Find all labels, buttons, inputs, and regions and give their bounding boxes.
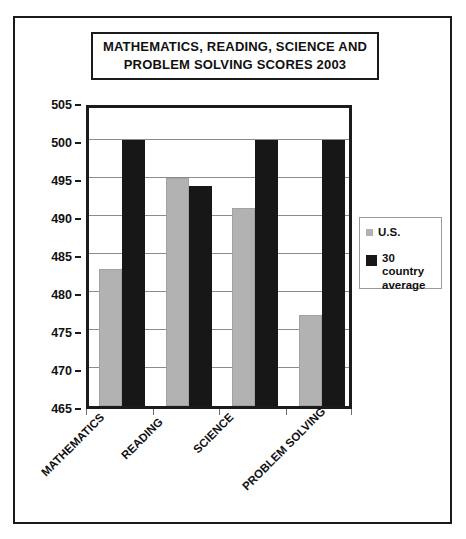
legend-label: U.S. (378, 226, 400, 239)
y-tick-mark (75, 408, 81, 410)
x-axis-ticks (86, 409, 352, 417)
y-tick-mark (75, 142, 81, 144)
bar-mathematics-average (122, 140, 145, 406)
x-tick-mark (351, 409, 352, 415)
chart-title-box: MATHEMATICS, READING, SCIENCE AND PROBLE… (91, 32, 379, 80)
bar-problem-solving-average (322, 140, 345, 406)
plot-area (86, 105, 352, 409)
x-tick-mark (219, 409, 220, 415)
bar-problem-solving-us (299, 315, 322, 406)
y-tick-mark (75, 256, 81, 258)
y-tick-mark (75, 370, 81, 372)
legend-label: 30 country average (382, 252, 435, 292)
y-tick-mark (75, 294, 81, 296)
bar-reading-average (189, 186, 212, 406)
y-tick-label: 500 (51, 136, 72, 150)
y-tick-label: 490 (51, 212, 72, 226)
y-tick-label: 465 (51, 402, 72, 416)
bars-layer (89, 108, 349, 406)
x-category-label-problem-solving: PROBLEM SOLVING (240, 405, 327, 492)
legend-swatch-us-icon (366, 229, 373, 236)
y-tick-label: 475 (51, 326, 72, 340)
y-tick-label: 505 (51, 98, 72, 112)
legend-entry-us: U.S. (366, 226, 435, 239)
chart-title: MATHEMATICS, READING, SCIENCE AND PROBLE… (97, 38, 373, 73)
y-tick-label: 485 (51, 250, 72, 264)
y-axis: 465470475480485490495500505 (15, 105, 81, 409)
y-tick-mark (75, 104, 81, 106)
x-tick-mark (86, 409, 87, 415)
chart-figure-frame: MATHEMATICS, READING, SCIENCE AND PROBLE… (13, 16, 452, 524)
x-category-label-mathematics: MATHEMATICS (39, 411, 106, 478)
y-tick-label: 470 (51, 364, 72, 378)
bar-science-us (232, 208, 255, 406)
y-tick-mark (75, 180, 81, 182)
x-axis-labels: MATHEMATICSREADINGSCIENCEPROBLEM SOLVING (15, 409, 435, 519)
legend-entry-average: 30 country average (366, 252, 435, 292)
y-tick-mark (75, 218, 81, 220)
bar-science-average (255, 140, 278, 406)
bar-mathematics-us (99, 269, 122, 406)
y-tick-mark (75, 332, 81, 334)
bar-reading-us (166, 178, 189, 406)
x-tick-mark (153, 409, 154, 415)
chart-legend: U.S.30 country average (359, 217, 442, 289)
x-category-label-reading: READING (119, 416, 165, 462)
legend-swatch-avg-icon (366, 255, 377, 266)
x-tick-mark (286, 409, 287, 415)
x-category-label-science: SCIENCE (191, 411, 236, 456)
y-tick-label: 495 (51, 174, 72, 188)
y-tick-label: 480 (51, 288, 72, 302)
